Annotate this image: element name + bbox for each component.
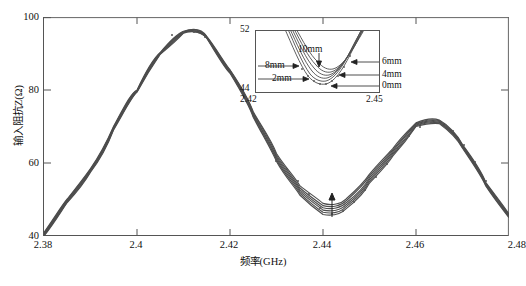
inset-markers (301, 55, 351, 85)
inset-label-0mm: 0mm (382, 80, 402, 90)
y-axis-title: 输入阻抗Z(Ω) (10, 61, 25, 171)
inset-curve-2mm (287, 31, 364, 81)
inset-y-tick-top: 52 (240, 24, 250, 34)
x-tick-label-244: 2.44 (299, 239, 345, 250)
inset-label-2mm: 2mm (272, 73, 292, 83)
x-tick-label-240: 2.4 (113, 239, 159, 250)
inset-arrow-4mm (339, 73, 379, 78)
inset-x-tick-left: 2.42 (240, 94, 257, 104)
inset-label-6mm: 6mm (382, 56, 402, 66)
inset-curve-0mm (284, 31, 364, 84)
y-tick-marks (44, 18, 51, 236)
inset-label-8mm: 8mm (265, 60, 285, 70)
x-tick-label-242: 2.42 (206, 239, 252, 250)
inset-arrow-0mm (331, 84, 379, 89)
y-tick-label-100: 100 (6, 12, 39, 22)
x-tick-label-238: 2.38 (20, 239, 66, 250)
inset-curve-4mm (289, 31, 365, 78)
y-tick-marks-right (501, 90, 508, 163)
x-tick-label-248: 2.48 (485, 239, 526, 250)
inset-curve-group (284, 31, 371, 84)
inset-label-4mm: 4mm (382, 69, 402, 79)
inset-arrow-6mm (351, 60, 379, 65)
x-axis-title: 频率(GHz) (0, 253, 526, 268)
inset-label-10mm: 10mm (298, 44, 322, 54)
inset-y-tick-bottom: 44 (240, 83, 250, 93)
x-tick-label-246: 2.46 (392, 239, 438, 250)
inset-x-tick-right: 2.45 (366, 94, 383, 104)
chart-root: 100 80 60 40 输入阻抗Z(Ω) 2.38 2.4 2.42 2.44… (0, 0, 526, 286)
